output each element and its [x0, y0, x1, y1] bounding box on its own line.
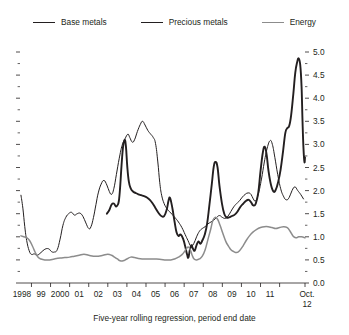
x-tick-label: 06 — [170, 289, 180, 299]
chart-caption: Five-year rolling regression, period end… — [0, 313, 349, 323]
series-line-base-metals — [21, 121, 304, 255]
y-tick-label: 1.5 — [313, 209, 325, 219]
y-tick-label: 2.0 — [313, 186, 325, 196]
x-tick-label: 09 — [227, 289, 237, 299]
x-tick-label-last-line1: Oct. — [299, 289, 314, 299]
y-tick-label: 5.0 — [313, 47, 325, 57]
y-tick-label: 0.0 — [313, 278, 325, 288]
x-tick-label: 02 — [94, 289, 104, 299]
x-tick-label: 99 — [36, 289, 46, 299]
x-axis-tick-labels: 19989920000102030405060708091011Oct.12 — [13, 289, 315, 309]
y-tick-label: 1.0 — [313, 232, 325, 242]
chart-figure: Base metalsPrecious metalsEnergy 1998992… — [0, 0, 349, 335]
x-tick-label: 2000 — [51, 289, 70, 299]
y-tick-label: 0.5 — [313, 255, 325, 265]
x-tick-label: 01 — [75, 289, 85, 299]
x-tick-label-last-line2: 12 — [302, 299, 312, 309]
x-tick-label: 10 — [246, 289, 256, 299]
axes — [16, 52, 309, 287]
x-tick-label: 03 — [113, 289, 123, 299]
y-axis-tick-labels: 0.00.51.01.52.02.53.03.54.04.55.0 — [313, 47, 325, 288]
y-tick-label: 2.5 — [313, 163, 325, 173]
x-tick-label: 08 — [208, 289, 218, 299]
x-tick-label: 07 — [189, 289, 199, 299]
chart-plot-area: 19989920000102030405060708091011Oct.12 0… — [0, 0, 349, 335]
x-tick-label: 11 — [266, 289, 275, 299]
y-tick-label: 3.5 — [313, 116, 325, 126]
y-tick-label: 4.0 — [313, 93, 325, 103]
series-lines — [21, 58, 305, 261]
x-tick-label: 1998 — [13, 289, 32, 299]
x-tick-label: 04 — [132, 289, 142, 299]
x-tick-label: 05 — [151, 289, 161, 299]
y-tick-label: 4.5 — [313, 70, 325, 80]
y-tick-label: 3.0 — [313, 139, 325, 149]
